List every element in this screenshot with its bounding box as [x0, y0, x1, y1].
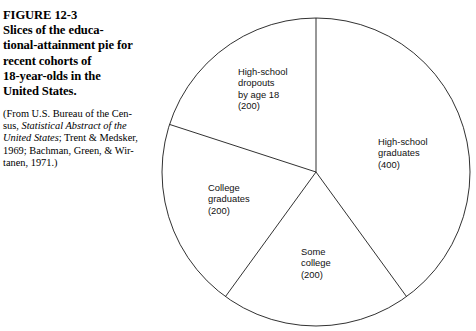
figure-source-line: 1969; Bachman, Green, & Wir- [3, 145, 155, 157]
source-italic-part: Statistical Abstract of the [21, 120, 126, 131]
figure-title-line: tional-attainment pie for [3, 38, 155, 53]
figure-source-line: tanen, 1971.) [3, 157, 155, 169]
figure-source-line: (From U.S. Bureau of the Cen- [3, 108, 155, 120]
source-italic-part: United States [3, 132, 59, 143]
figure-title-line: FIGURE 12-3 [3, 8, 155, 23]
figure-title: FIGURE 12-3 Slices of the educa- tional-… [3, 8, 155, 99]
source-suffix: ; Trent & Medsker, [59, 132, 138, 143]
figure-source-line: United States; Trent & Medsker, [3, 132, 155, 144]
figure-title-line: Slices of the educa- [3, 23, 155, 38]
figure-title-line: 18-year-olds in the [3, 69, 155, 84]
figure-source-citation: (From U.S. Bureau of the Cen- sus, Stati… [3, 108, 155, 168]
figure-title-line: United States. [3, 84, 155, 99]
source-prefix: sus, [3, 120, 21, 131]
figure-title-line: recent cohorts of [3, 54, 155, 69]
pie-chart-figure: High-schoolgraduates(400)Somecollege(200… [160, 14, 476, 331]
pie-chart-svg: High-schoolgraduates(400)Somecollege(200… [160, 14, 476, 331]
figure-source-line: sus, Statistical Abstract of the [3, 120, 155, 132]
figure-caption-block: FIGURE 12-3 Slices of the educa- tional-… [3, 8, 155, 169]
